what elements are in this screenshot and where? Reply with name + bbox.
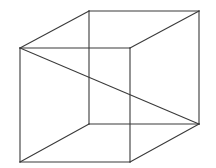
connecting-edge-top-right: [130, 11, 199, 48]
cube-edge-group: [20, 11, 199, 162]
necker-cube-figure: Necker cube wireframe line drawing: [0, 0, 216, 168]
cube-wireframe-svg: [0, 0, 216, 168]
connecting-edge-top-left: [20, 11, 89, 48]
connecting-edge-bottom-left: [20, 124, 89, 162]
left-to-right-diagonal: [20, 48, 199, 124]
connecting-edge-bottom-right: [130, 124, 199, 162]
